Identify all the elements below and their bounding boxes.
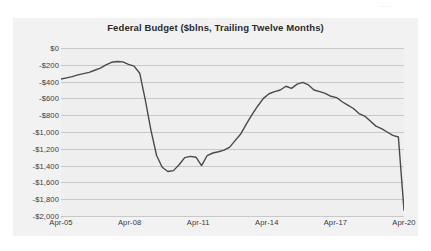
x-axis-tick-label: Apr-14 <box>255 218 278 227</box>
y-axis-tick-label: -$1,600 <box>33 178 59 187</box>
x-axis-tick-label: Apr-17 <box>324 218 347 227</box>
y-axis-tick-label: -$400 <box>39 77 59 86</box>
x-axis-tick-label: Apr-11 <box>187 218 210 227</box>
y-axis-tick-label: -$1,000 <box>33 128 59 137</box>
budget-line-series <box>61 48 404 216</box>
chart-title: Federal Budget ($blns, Trailing Twelve M… <box>13 22 418 33</box>
cropped-header-text: ...... <box>378 0 412 9</box>
y-axis-tick-label: $0 <box>50 44 59 53</box>
y-axis-tick-label: -$800 <box>39 111 59 120</box>
screenshot-page: ...... Federal Budget ($blns, Trailing T… <box>0 0 431 251</box>
gridline <box>61 216 404 217</box>
y-axis-tick-label: -$600 <box>39 94 59 103</box>
y-axis-tick-label: -$200 <box>39 60 59 69</box>
chart-figure: Federal Budget ($blns, Trailing Twelve M… <box>13 18 418 236</box>
y-axis-tick-label: -$1,200 <box>33 144 59 153</box>
x-axis-tick-label: Apr-08 <box>118 218 141 227</box>
plot-area <box>61 48 404 216</box>
x-axis-tick-label: Apr-05 <box>49 218 72 227</box>
y-axis-tick-label: -$1,400 <box>33 161 59 170</box>
y-axis-tick-label: -$1,800 <box>33 195 59 204</box>
x-axis-tick-label: Apr-20 <box>392 218 415 227</box>
